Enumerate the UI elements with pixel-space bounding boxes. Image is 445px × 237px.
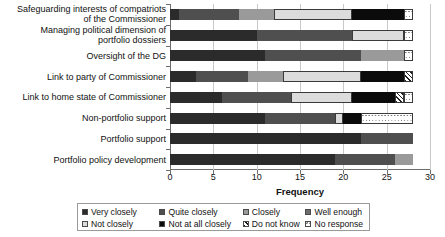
stacked-bar-chart: Safeguarding interests of compatriots of… [0, 0, 445, 237]
y-axis-category-labels: Safeguarding interests of compatriots of… [0, 0, 166, 175]
y-tick [166, 46, 170, 47]
bar-row [170, 113, 413, 124]
y-tick [166, 129, 170, 130]
bar-segment [335, 113, 344, 124]
x-tick-label: 25 [382, 172, 392, 182]
chart-legend: Very closelyQuite closelyCloselyWell eno… [77, 203, 370, 231]
bar-segment [170, 71, 196, 82]
y-axis-label: Non-portfolio support [82, 113, 166, 123]
bar-segment [170, 154, 335, 165]
y-tick [166, 87, 170, 88]
bar-segment [361, 133, 413, 144]
bar-segment [265, 113, 334, 124]
bar-segment [196, 71, 248, 82]
bar-segment [170, 133, 361, 144]
bar-segment [361, 71, 404, 82]
legend-item: Very closely [82, 207, 159, 217]
bar-segment [170, 92, 222, 103]
bar-segment [179, 9, 240, 20]
legend-swatch [305, 221, 311, 227]
bar-segment [352, 30, 404, 41]
legend-label: Do not know [252, 219, 300, 229]
y-axis-label: Link to home state of Commissioner [22, 92, 166, 102]
bar-segment [404, 30, 413, 41]
bar-row [170, 92, 413, 103]
y-axis-label: Portfolio policy development [53, 155, 166, 165]
bar-segment [170, 50, 265, 61]
legend-swatch [82, 221, 88, 227]
bar-segment [395, 154, 412, 165]
legend-swatch [243, 209, 249, 215]
legend-item: Not at all closely [159, 219, 242, 229]
legend-label: Not at all closely [168, 219, 231, 229]
y-tick [166, 108, 170, 109]
legend-swatch [82, 209, 88, 215]
x-tick-label: 5 [211, 172, 216, 182]
bar-row [170, 71, 413, 82]
y-tick [166, 4, 170, 5]
bar-segment [170, 30, 257, 41]
legend-label: No response [314, 219, 363, 229]
y-tick [166, 149, 170, 150]
y-tick [166, 66, 170, 67]
legend-swatch [159, 209, 165, 215]
legend-row-1: Very closelyQuite closelyCloselyWell eno… [82, 206, 365, 218]
bar-segment [361, 113, 413, 124]
x-tick-label: 10 [252, 172, 262, 182]
legend-swatch [305, 209, 311, 215]
x-tick-label: 20 [338, 172, 348, 182]
legend-item: Not closely [82, 219, 159, 229]
x-tick-label: 0 [167, 172, 172, 182]
y-tick [166, 25, 170, 26]
bar-segment [352, 92, 395, 103]
gridline [430, 4, 431, 170]
bar-segment [352, 9, 404, 20]
x-tick-label: 30 [425, 172, 435, 182]
bar-segment [291, 92, 352, 103]
bar-segment [283, 71, 361, 82]
bar-row [170, 30, 413, 41]
bar-segment [170, 113, 265, 124]
bar-segment [239, 9, 274, 20]
bar-segment [335, 154, 396, 165]
bar-row [170, 133, 413, 144]
bar-segment [248, 71, 283, 82]
legend-label: Closely [252, 207, 280, 217]
legend-label: Well enough [314, 207, 362, 217]
legend-label: Not closely [91, 219, 133, 229]
y-axis-label: Safeguarding interests of compatriots of… [17, 4, 166, 24]
legend-label: Very closely [91, 207, 137, 217]
y-axis-label: Portfolio support [100, 134, 166, 144]
bar-segment [404, 92, 413, 103]
bar-segment [170, 9, 179, 20]
bar-segment [222, 92, 291, 103]
bar-segment [404, 50, 413, 61]
x-tick-label: 15 [295, 172, 305, 182]
legend-item: No response [305, 219, 365, 229]
bar-segment [404, 71, 413, 82]
bar-segment [361, 50, 404, 61]
legend-label: Quite closely [168, 207, 217, 217]
y-axis-label: Link to party of Commissioner [47, 72, 166, 82]
bar-segment [343, 113, 360, 124]
x-axis-title: Frequency [170, 186, 430, 197]
y-axis-label: Managing political dimension of portfoli… [40, 25, 166, 45]
legend-swatch [159, 221, 165, 227]
bar-segment [257, 30, 352, 41]
legend-item: Do not know [243, 219, 306, 229]
bar-segment [274, 9, 352, 20]
legend-row-2: Not closelyNot at all closelyDo not know… [82, 218, 365, 230]
legend-item: Closely [243, 207, 306, 217]
bar-row [170, 9, 413, 20]
y-axis-label: Oversight of the DG [86, 51, 166, 61]
legend-swatch [243, 221, 249, 227]
bar-segment [265, 50, 360, 61]
plot-area [170, 4, 430, 170]
bar-row [170, 50, 413, 61]
bar-segment [404, 9, 413, 20]
legend-item: Well enough [305, 207, 365, 217]
legend-item: Quite closely [159, 207, 242, 217]
bar-segment [395, 92, 404, 103]
bar-row [170, 154, 413, 165]
